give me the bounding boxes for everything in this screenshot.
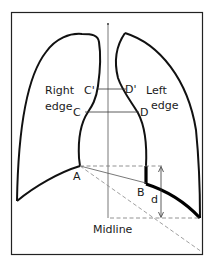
label-c: C <box>73 106 81 119</box>
diagram-frame <box>12 13 203 255</box>
left-lung-medial-edge <box>116 33 146 166</box>
right-lung-outline <box>17 34 100 201</box>
label-b: B <box>137 186 145 199</box>
label-a: A <box>73 170 81 183</box>
label-left-edge-1: Left <box>146 84 167 97</box>
label-c-prime: C' <box>84 84 95 97</box>
label-left-edge-2: edge <box>151 99 179 112</box>
label-right-edge-1: Right <box>45 84 75 97</box>
label-d-distance: d <box>151 193 158 206</box>
label-right-edge-2: edge <box>45 100 73 113</box>
lung-diagram: Right edge Left edge C' D' C D A B d Mid… <box>0 0 213 270</box>
label-d-prime: D' <box>125 83 137 96</box>
label-d-point: D <box>140 106 148 119</box>
label-midline: Midline <box>93 223 133 236</box>
right-lung-base <box>17 166 80 201</box>
dashed-diagonal <box>80 166 202 252</box>
line-a-b <box>80 166 146 183</box>
